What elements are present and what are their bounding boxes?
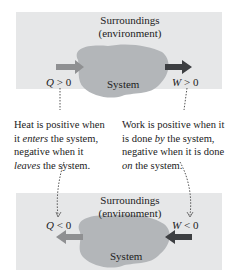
surroundings-label-top: Surroundings (environment) [80, 14, 180, 40]
work-sign-top: W > 0 [172, 76, 198, 88]
work-arrow-out-icon [165, 60, 192, 74]
system-label-top: System [107, 78, 139, 90]
heat-arrow-out-icon [56, 230, 83, 244]
work-sign-bottom: W < 0 [172, 219, 198, 231]
heat-sign-bottom: Q < 0 [46, 219, 71, 231]
connector-work-top [184, 88, 187, 110]
heat-sign-top: Q > 0 [46, 76, 71, 88]
heat-sign-description: Heat is positive when it enters the syst… [14, 118, 105, 172]
work-sign-description: Work is positive when it is done by the … [122, 118, 224, 172]
surroundings-label-bottom: Surroundings (environment) [80, 194, 180, 220]
system-label-bottom: System [110, 250, 142, 262]
